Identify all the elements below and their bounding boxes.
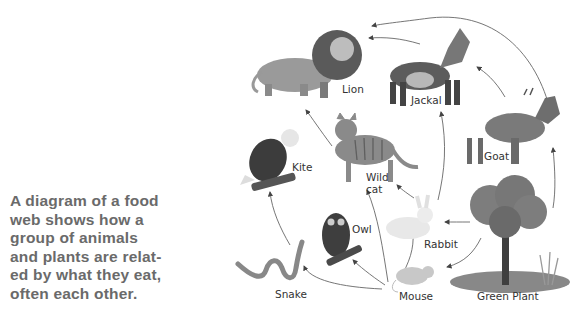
arrow-rabbit-to-jackal [438, 112, 445, 200]
label-owl: Owl [352, 223, 372, 235]
label-lion: Lion [342, 83, 364, 95]
label-green-plant: Green Plant [477, 290, 539, 302]
arrow-rabbit-to-wildcat [397, 185, 414, 198]
label-mouse: Mouse [399, 290, 433, 302]
goat-illustration [467, 88, 560, 164]
snake-illustration [238, 242, 302, 278]
arrow-mouse-to-snake [304, 266, 382, 289]
arrow-goat-to-jackal [477, 67, 505, 97]
label-snake: Snake [275, 288, 307, 300]
arrow-jackal-to-lion [369, 38, 420, 44]
label-rabbit: Rabbit [424, 238, 458, 250]
label-kite: Kite [292, 161, 312, 173]
arrow-plant-to-goat [553, 148, 555, 208]
rabbit-illustration [386, 195, 433, 239]
label-jackal: Jackal [410, 94, 442, 106]
green-plant-illustration [450, 175, 570, 293]
arrow-wildcat-to-lion [306, 110, 332, 146]
label-wildcat-line2: cat [366, 183, 382, 195]
label-wildcat-line1: Wild [366, 171, 389, 183]
arrow-mouse-to-wildcat [367, 190, 388, 282]
kite-illustration [240, 129, 299, 192]
arrow-mouse-to-owl [353, 260, 385, 285]
food-web-diagram: Lion Jackal Goat Kite [0, 0, 580, 323]
owl-illustration [322, 213, 363, 267]
label-goat: Goat [484, 150, 509, 162]
arrow-snake-to-kite [270, 192, 290, 245]
mouse-illustration [392, 266, 434, 292]
